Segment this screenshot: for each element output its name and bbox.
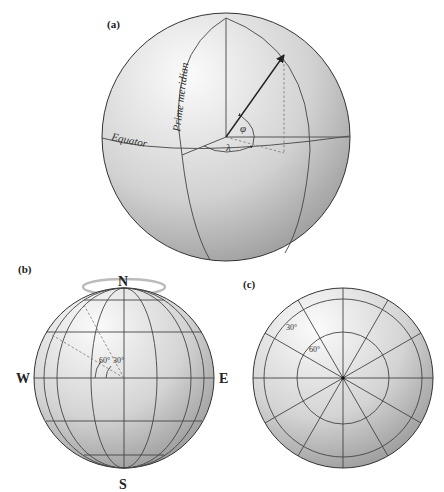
panel-label-c: (c) xyxy=(243,278,256,291)
compass-south: S xyxy=(119,477,127,492)
longitude-symbol: λ xyxy=(225,141,231,153)
panel-label-a: (a) xyxy=(107,18,120,31)
figure-canvas: (a) φ λ Equator Prime meridian (b) xyxy=(0,0,444,492)
compass-west: W xyxy=(16,371,30,386)
compass-east: E xyxy=(219,371,228,386)
panel-c: (c) 30° 60° xyxy=(243,278,433,468)
panel-a: (a) φ λ Equator Prime meridian xyxy=(102,13,350,261)
angle-label-30: 30° xyxy=(113,356,124,365)
latitude-symbol: φ xyxy=(240,122,246,134)
circle-label-60: 60° xyxy=(309,345,320,354)
angle-label-60: 60° xyxy=(99,356,110,365)
compass-north: N xyxy=(118,274,128,289)
panel-b: (b) 60° 30° N S W E xyxy=(16,263,228,492)
circle-label-30: 30° xyxy=(286,323,297,332)
panel-label-b: (b) xyxy=(18,263,32,276)
pole-point xyxy=(341,376,345,380)
